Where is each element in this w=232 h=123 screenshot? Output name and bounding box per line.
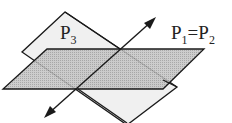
label-p1-p2: P1=P2: [171, 22, 215, 47]
diagram-svg: P3 P1=P2: [0, 0, 232, 123]
planes-diagram: P3 P1=P2: [0, 0, 232, 123]
